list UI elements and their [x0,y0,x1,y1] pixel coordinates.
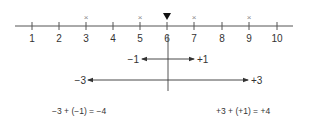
tick-label: 6 [164,33,170,44]
number-line-diagram: 12345678910 ×××× −1 +1 −3 +3 −3 + (−1) =… [0,0,309,127]
cross-mark-icon: × [138,13,143,22]
cross-mark-icon: × [192,13,197,22]
short-arrow-left-label: −1 [128,54,140,65]
tick-label: 2 [56,33,62,44]
tick-label: 8 [219,33,225,44]
tick-label: 7 [191,33,197,44]
tick-label: 5 [137,33,143,44]
short-arrow-right-label: +1 [197,54,209,65]
long-arrow-left-label: −3 [75,75,87,86]
tick-label: 1 [29,33,35,44]
tick-label: 4 [110,33,116,44]
tick-label: 9 [246,33,252,44]
tick-label: 10 [271,33,283,44]
tick-label: 3 [83,33,89,44]
cross-mark-icon: × [247,13,252,22]
long-arrow-right-label: +3 [251,75,263,86]
equation-left: −3 + (−1) = −4 [52,106,106,116]
tick-labels: 12345678910 [29,33,283,44]
equation-right: +3 + (+1) = +4 [216,106,270,116]
cross-mark-icon: × [84,13,89,22]
triangle-down-icon [163,13,171,20]
